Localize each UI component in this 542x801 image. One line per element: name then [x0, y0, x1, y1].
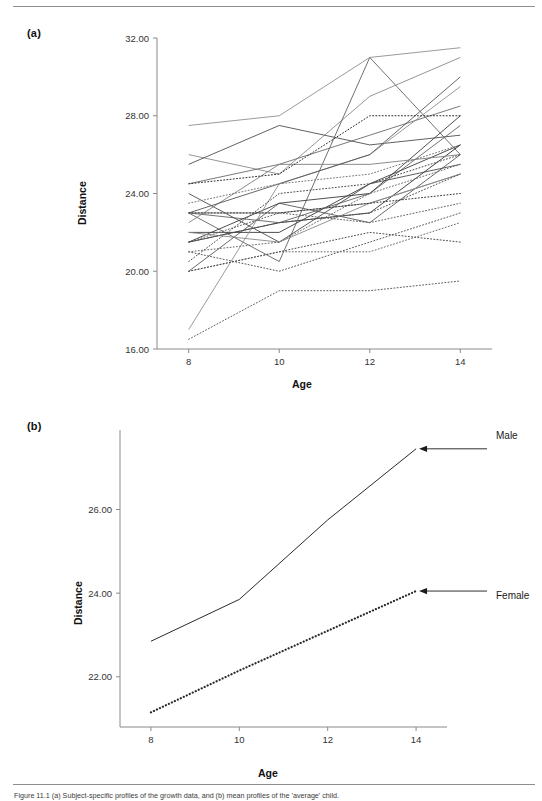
- y-tick-label: 24.00: [125, 188, 149, 199]
- x-tick-label: 8: [186, 356, 191, 367]
- x-tick-label: 14: [455, 356, 466, 367]
- series-line-f04: [189, 145, 461, 203]
- panel-b-svg: 22.0024.0026.008101214: [0, 400, 542, 780]
- y-tick-label: 28.00: [125, 110, 149, 121]
- x-tick-label: 14: [411, 734, 422, 745]
- arrow-female: [419, 588, 487, 594]
- series-line-f10: [189, 281, 461, 339]
- series-line-m07: [189, 145, 461, 232]
- female-annotation-label: Female: [496, 590, 529, 601]
- figure-caption: Figure 11.1 (a) Subject-specific profile…: [14, 791, 534, 800]
- x-tick-label: 10: [274, 356, 285, 367]
- x-tick-label: 12: [322, 734, 333, 745]
- male-annotation-label: Male: [496, 430, 518, 441]
- y-tick-label: 22.00: [88, 671, 112, 682]
- x-tick-label: 8: [148, 734, 153, 745]
- y-tick-label: 32.00: [125, 33, 149, 44]
- series-line-m10: [189, 48, 461, 126]
- x-tick-label: 10: [234, 734, 245, 745]
- y-tick-label: 16.00: [125, 344, 149, 355]
- series-line-m11: [189, 174, 461, 213]
- bottom-rule: [13, 784, 535, 785]
- series-line-male: [151, 449, 416, 641]
- panel-b-plot: 22.0024.0026.008101214: [0, 400, 542, 780]
- panel-a-svg: 16.0020.0024.0028.0032.008101214: [0, 0, 542, 400]
- arrow-male: [419, 446, 487, 452]
- figure-page: (a) Distance Age 16.0020.0024.0028.0032.…: [0, 0, 542, 801]
- panel-a-plot: 16.0020.0024.0028.0032.008101214: [0, 0, 542, 400]
- x-tick-label: 12: [364, 356, 375, 367]
- y-tick-label: 26.00: [88, 504, 112, 515]
- series-line-female: [151, 591, 416, 712]
- y-tick-label: 24.00: [88, 588, 112, 599]
- y-tick-label: 20.00: [125, 266, 149, 277]
